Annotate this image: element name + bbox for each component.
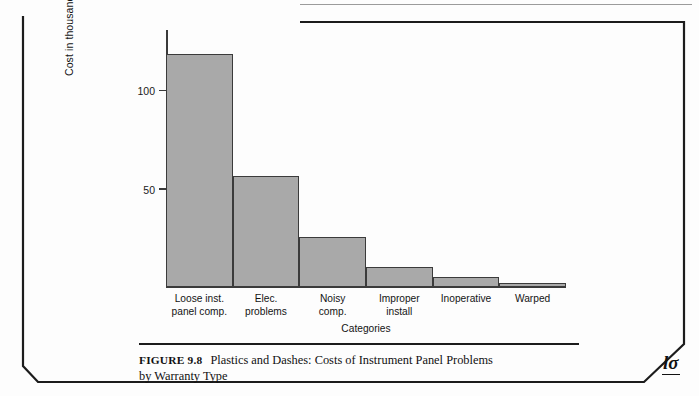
figure-caption-line-2: by Warranty Type	[139, 369, 228, 383]
x-axis-title: Categories	[166, 323, 566, 334]
y-axis-title: Cost in thousands of dollars	[63, 0, 75, 76]
x-category-label-5-line-0: Warped	[499, 293, 566, 306]
x-category-label-2: Noisycomp.	[299, 293, 366, 318]
x-category-label-4-line-0: Inoperative	[433, 293, 500, 306]
caption-divider	[139, 343, 579, 345]
bar-2	[299, 237, 366, 286]
scanned-page: Cost in thousands of dollars 50 100 Loos…	[0, 0, 699, 396]
x-axis-line	[166, 287, 566, 289]
x-axis-category-labels: Loose inst.panel comp.Elec.problemsNoisy…	[166, 293, 566, 318]
x-category-label-0-line-1: panel comp.	[166, 306, 233, 319]
x-category-label-5: Warped	[499, 293, 566, 318]
plot-area: 50 100	[166, 30, 566, 288]
figure-number: FIGURE 9.8	[139, 354, 202, 366]
x-category-label-3-line-1: install	[366, 306, 433, 319]
bar-1	[233, 176, 300, 286]
bar-0	[166, 54, 233, 286]
x-category-label-2-line-1: comp.	[299, 306, 366, 319]
x-category-label-3: Improperinstall	[366, 293, 433, 318]
x-category-label-3-line-0: Improper	[366, 293, 433, 306]
publisher-logo: lσ	[662, 353, 680, 375]
x-category-label-1-line-0: Elec.	[233, 293, 300, 306]
bar-3	[366, 267, 433, 287]
figure-body: Cost in thousands of dollars 50 100 Loos…	[23, 16, 684, 380]
x-category-label-4: Inoperative	[433, 293, 500, 318]
x-category-label-1-line-1: problems	[233, 306, 300, 319]
x-category-label-1: Elec.problems	[233, 293, 300, 318]
bar-series	[166, 31, 566, 287]
bar-4	[433, 277, 500, 287]
x-category-label-2-line-0: Noisy	[299, 293, 366, 306]
y-tick-label-100: 100	[137, 85, 155, 97]
bar-5	[499, 283, 566, 287]
y-tick-label-50: 50	[143, 184, 155, 196]
figure-caption: FIGURE 9.8Plastics and Dashes: Costs of …	[139, 352, 599, 384]
x-category-label-0-line-0: Loose inst.	[166, 293, 233, 306]
x-category-label-0: Loose inst.panel comp.	[166, 293, 233, 318]
figure-caption-line-1: Plastics and Dashes: Costs of Instrument…	[210, 353, 493, 367]
